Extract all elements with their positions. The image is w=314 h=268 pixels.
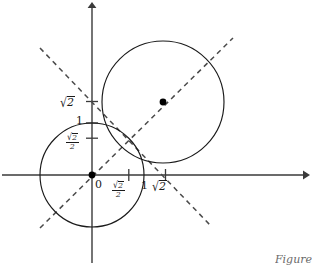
- figure-container: √2 1 √2 2 0 √2 2 1 √2 Figure: [0, 0, 314, 268]
- tick-marks-group: [86, 102, 166, 182]
- y-axis-label-sqrt2-over-2: √2 2: [66, 133, 79, 152]
- figure-canvas: [0, 0, 314, 268]
- x-axis-label-sqrt2-over-2: √2 2: [112, 181, 125, 200]
- fraction-denominator: 2: [66, 143, 79, 151]
- radical-sign-icon: √: [67, 133, 72, 143]
- y-axis-arrow-icon: [88, 2, 97, 8]
- second-circle-center-point: [160, 99, 167, 106]
- radical-sign-icon: √: [113, 181, 118, 191]
- origin-label: 0: [95, 179, 102, 190]
- y-axis-label-one: 1: [76, 115, 83, 126]
- x-axis-arrow-icon: [303, 171, 310, 180]
- figure-caption: Figure: [275, 253, 312, 266]
- x-axis-label-sqrt2: √2: [152, 180, 167, 192]
- fraction-denominator: 2: [112, 191, 125, 199]
- radical-sign-icon: √: [60, 96, 67, 109]
- y-axis-label-sqrt2: √2: [60, 96, 75, 108]
- radical-sign-icon: √: [152, 180, 159, 193]
- x-axis-label-one: 1: [141, 180, 148, 191]
